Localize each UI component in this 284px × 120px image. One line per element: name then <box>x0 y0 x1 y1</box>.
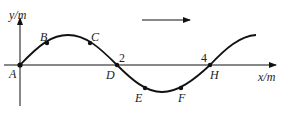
wave-diagram: y/m x/m A B C D E F H 2 4 <box>0 0 284 120</box>
x-axis-label: x/m <box>257 70 276 84</box>
point-h-label: H <box>209 68 220 82</box>
tick-label-2: 2 <box>119 51 125 65</box>
wave-curve <box>20 35 256 92</box>
point-f-label: F <box>177 91 186 105</box>
tick-label-4: 4 <box>201 51 207 65</box>
point-d-label: D <box>105 68 115 82</box>
point-a-dot <box>17 62 22 67</box>
point-e-label: E <box>134 91 143 105</box>
point-b-label: B <box>40 30 48 44</box>
point-f-dot <box>179 86 183 90</box>
point-e-dot <box>143 86 147 90</box>
point-a-label: A <box>8 67 17 81</box>
y-axis-label: y/m <box>8 8 27 22</box>
point-h-dot <box>208 63 212 67</box>
point-c-label: C <box>91 30 100 44</box>
